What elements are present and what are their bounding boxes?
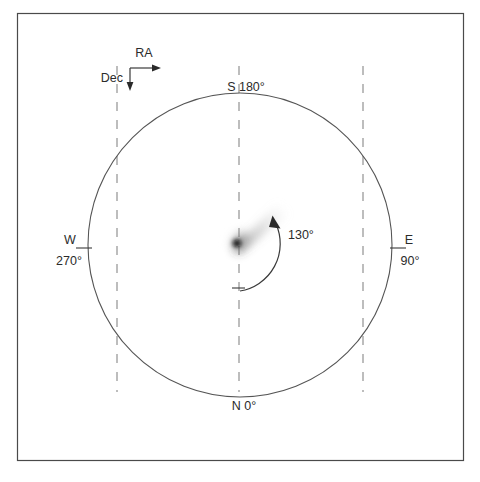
dec-axis-label: Dec <box>101 71 123 85</box>
north-label: N 0° <box>232 399 256 413</box>
comet-orientation-figure: RA Dec S 180° N 0° W 270° E 90° 130° <box>0 0 480 482</box>
west-letter-label: W <box>64 233 76 247</box>
ra-axis-label: RA <box>135 46 153 60</box>
comet-object <box>217 203 288 263</box>
dec-arrow-head <box>127 82 134 91</box>
east-letter-label: E <box>405 233 413 247</box>
ra-dec-axes <box>127 65 161 91</box>
south-label: S 180° <box>227 80 265 94</box>
ra-arrow-head <box>152 65 161 72</box>
diagram-canvas: RA Dec S 180° N 0° W 270° E 90° 130° <box>0 0 480 482</box>
east-angle-label: 90° <box>401 254 420 268</box>
comet-nucleus-core <box>234 241 241 247</box>
west-angle-label: 270° <box>56 254 82 268</box>
position-angle-label: 130° <box>288 228 314 242</box>
